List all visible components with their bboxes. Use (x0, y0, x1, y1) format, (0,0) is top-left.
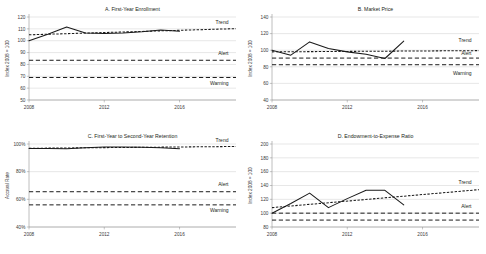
x-tick-label-1: 2012 (342, 232, 353, 237)
y-tick-label-3: 140 (261, 183, 269, 188)
series-annotation-trend-a: Trend (216, 19, 229, 25)
x-tick-label-0: 2008 (267, 232, 278, 237)
x-tick-label-2: 2016 (174, 105, 185, 110)
y-axis-title-b: Index 2008 = 100 (248, 40, 253, 77)
chart-panel-b: B. Market Price4060801001201402008201220… (243, 0, 486, 127)
y-tick-label-1: 60% (16, 197, 25, 202)
y-tick-label-0: 40 (263, 98, 269, 103)
y-tick-label-5: 140 (261, 15, 269, 20)
y-tick-label-3: 80 (20, 62, 26, 67)
series-annotation-alert-b: Alert (461, 50, 472, 56)
x-tick-label-0: 2008 (24, 105, 35, 110)
chart-svg-a: A. First-Year Enrollment5060708090100110… (0, 0, 243, 127)
series-line-actual-d (272, 190, 404, 213)
chart-panel-d: D. Endowment-to-Expense Ratio80100120140… (243, 127, 486, 254)
y-tick-label-1: 100 (261, 211, 269, 216)
y-tick-label-1: 60 (263, 81, 269, 86)
x-tick-label-1: 2012 (342, 105, 353, 110)
chart-title-d: D. Endowment-to-Expense Ratio (338, 133, 414, 139)
y-tick-label-6: 200 (261, 142, 269, 147)
series-annotation-alert-d: Alert (461, 203, 472, 209)
y-tick-label-7: 120 (18, 15, 26, 20)
x-tick-label-1: 2012 (99, 232, 110, 237)
y-tick-label-3: 100 (261, 48, 269, 53)
y-axis-title-c: Accrual Rate (5, 172, 10, 199)
series-annotation-trend-b: Trend (459, 37, 472, 43)
series-annotation-alert-a: Alert (218, 50, 229, 56)
series-annotation-trend-d: Trend (459, 179, 472, 185)
y-tick-label-4: 160 (261, 169, 269, 174)
chart-title-c: C. First-Year to Second-Year Retention (88, 133, 178, 139)
chart-svg-c: C. First-Year to Second-Year Retention40… (0, 127, 243, 254)
y-axis-title-a: Index 2008 = 100 (5, 40, 10, 77)
y-tick-label-0: 40% (16, 225, 25, 230)
series-line-trend-d (272, 190, 479, 208)
x-tick-label-0: 2008 (24, 232, 35, 237)
chart-svg-b: B. Market Price4060801001201402008201220… (243, 0, 486, 127)
series-line-actual-a (29, 27, 180, 41)
y-tick-label-0: 80 (263, 225, 269, 230)
series-annotation-warning-a: Warning (210, 80, 229, 86)
chart-title-a: A. First-Year Enrollment (105, 6, 160, 12)
series-line-actual-b (272, 41, 404, 58)
y-tick-label-5: 100 (18, 38, 26, 43)
series-annotation-warning-c: Warning (210, 207, 229, 213)
chart-title-b: B. Market Price (358, 6, 394, 12)
four-panel-chart-figure: A. First-Year Enrollment5060708090100110… (0, 0, 486, 254)
chart-svg-d: D. Endowment-to-Expense Ratio80100120140… (243, 127, 486, 254)
y-tick-label-0: 50 (20, 98, 26, 103)
series-line-trend-b (272, 51, 479, 52)
series-annotation-alert-c: Alert (218, 181, 229, 187)
y-tick-label-2: 70 (20, 74, 26, 79)
series-annotation-warning-b: Warning (453, 70, 472, 76)
series-annotation-trend-c: Trend (216, 137, 229, 143)
x-tick-label-2: 2016 (417, 232, 428, 237)
y-tick-label-4: 90 (20, 50, 26, 55)
x-tick-label-2: 2016 (417, 105, 428, 110)
y-tick-label-2: 80 (263, 65, 269, 70)
y-tick-label-2: 80% (16, 169, 25, 174)
y-tick-label-6: 110 (18, 27, 26, 32)
x-tick-label-2: 2016 (174, 232, 185, 237)
chart-panel-a: A. First-Year Enrollment5060708090100110… (0, 0, 243, 127)
y-tick-label-3: 100% (13, 142, 25, 147)
x-tick-label-1: 2012 (99, 105, 110, 110)
y-tick-label-4: 120 (261, 31, 269, 36)
x-tick-label-0: 2008 (267, 105, 278, 110)
chart-panel-c: C. First-Year to Second-Year Retention40… (0, 127, 243, 254)
y-tick-label-1: 60 (20, 86, 26, 91)
y-tick-label-2: 120 (261, 197, 269, 202)
y-axis-title-d: Index 2008 = 100 (248, 167, 253, 204)
y-tick-label-5: 180 (261, 156, 269, 161)
